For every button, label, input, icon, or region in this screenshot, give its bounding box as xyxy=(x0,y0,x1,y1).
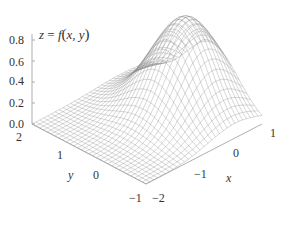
z-tick-label: 0.2 xyxy=(9,97,24,109)
x-tick-label: 0 xyxy=(233,147,239,159)
y-tick-label: 2 xyxy=(16,131,22,143)
x-axis-label: x xyxy=(226,172,231,184)
chart-title: z = f(x, y) xyxy=(39,26,90,43)
z-tick-label: 0.4 xyxy=(9,75,24,87)
x-tick-label: −1 xyxy=(194,168,207,180)
y-tick-label: 1 xyxy=(57,149,63,161)
z-tick-label: 0.6 xyxy=(9,56,24,68)
y-tick-label: −1 xyxy=(129,192,142,204)
x-tick-label: −2 xyxy=(152,192,165,204)
z-tick-label: 0.8 xyxy=(9,34,24,46)
y-axis-label: y xyxy=(68,169,73,181)
y-tick-label: 0 xyxy=(93,169,99,181)
x-tick-label: 1 xyxy=(270,127,276,139)
z-tick-label: 0.0 xyxy=(9,118,24,130)
